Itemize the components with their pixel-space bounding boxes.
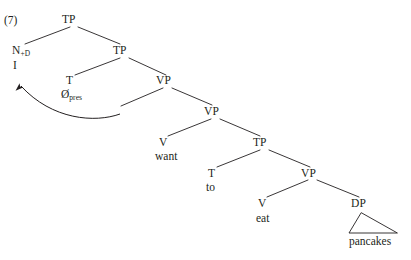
branch-lowervp-to-v-want [168,119,211,136]
branch-wanttp-to-innervp [269,150,310,167]
node-dp-object: DP [351,198,366,210]
syntax-tree-figure: (7) TP N+D TP T VP VP V TP T VP V DP I Ø… [0,0,411,260]
node-root-tp: TP [62,14,76,26]
terminal-to: to [206,182,215,194]
node-t-pres: T [66,75,73,87]
node-subject-n-subscript: +D [20,49,30,58]
terminal-pancakes: pancakes [349,236,391,248]
dp-abbreviation-triangle [349,213,397,233]
branch-innertp-to-t [75,58,120,75]
terminal-tense-subscript: pres [69,93,82,102]
node-v-eat: V [258,198,266,210]
terminal-tense-present: Øpres [61,89,82,102]
terminal-eat: eat [256,213,269,225]
branch-innervp-to-v-eat [267,180,308,197]
node-inner-tp: TP [113,45,127,57]
branch-uppervp-to-trace [121,88,163,106]
branch-lowervp-to-want-tp [220,119,260,136]
node-inner-vp: VP [301,168,316,180]
node-lower-vp: VP [204,106,219,118]
terminal-subject: I [13,60,17,72]
branch-wanttp-to-t-to [217,150,260,167]
branch-root-to-subject [25,27,70,44]
node-want-tp: TP [253,137,267,149]
example-number: (7) [4,14,17,26]
branch-innervp-to-dp [317,180,359,197]
terminal-want: want [155,151,177,163]
tree-branch-lines [0,0,411,260]
branch-innertp-to-uppervp [129,58,166,75]
branch-root-to-inner-tp [78,27,120,44]
node-subject-n: N+D [12,45,30,58]
node-v-want: V [159,137,167,149]
node-t-to: T [208,168,215,180]
node-upper-vp: VP [156,75,171,87]
branch-uppervp-to-lowervp [172,88,212,105]
